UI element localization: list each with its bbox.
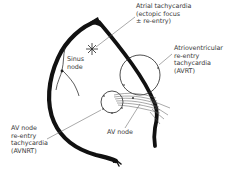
label-sinus-node: Sinus node	[67, 56, 84, 71]
ectopic-focus-icon	[86, 43, 98, 55]
leader-avrt	[159, 54, 172, 65]
avnrt-circuit	[101, 91, 123, 114]
leader-av-node	[125, 104, 140, 128]
label-av-node: AV node	[107, 129, 133, 137]
label-avrt: Atrioventricular re-entry tachycardia (A…	[174, 45, 223, 75]
label-avnrt: AV node re-entry tachycardia (AVNRT)	[11, 125, 48, 155]
label-atrial-tachycardia: Atrial tachycardia (ectopic focus ± re-e…	[136, 3, 191, 26]
